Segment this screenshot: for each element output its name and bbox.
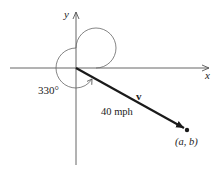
vector-v xyxy=(76,68,184,128)
endpoint-label: (a, b) xyxy=(175,136,198,148)
vector-name-label: v xyxy=(136,90,142,102)
angle-arc xyxy=(56,28,116,88)
vector-diagram: y x 330° v 40 mph (a, b) xyxy=(0,0,217,169)
y-axis-label: y xyxy=(63,8,69,20)
magnitude-label: 40 mph xyxy=(101,106,134,117)
x-axis-label: x xyxy=(204,69,210,81)
angle-label: 330° xyxy=(38,84,59,96)
endpoint-dot xyxy=(185,128,189,132)
